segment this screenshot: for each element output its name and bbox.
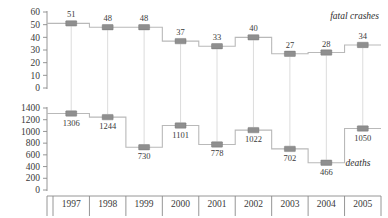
data-point-marker <box>284 51 295 56</box>
data-point-marker <box>248 35 259 40</box>
data-value-label: 37 <box>176 27 185 37</box>
data-value-label: 1306 <box>63 118 80 128</box>
y-tick-label: 0 <box>35 83 40 93</box>
x-axis-year-label: 2001 <box>208 199 227 209</box>
bottom-panel: 0200400600800100012001400130612447301101… <box>21 103 381 195</box>
x-axis-year-label: 1998 <box>98 199 117 209</box>
data-value-label: 1101 <box>172 130 189 140</box>
y-tick-label: 30 <box>31 45 41 55</box>
y-tick-label: 40 <box>31 33 41 43</box>
data-value-label: 466 <box>320 167 333 177</box>
data-point-marker <box>102 25 113 30</box>
x-axis-year-label: 2000 <box>171 199 190 209</box>
y-tick-label: 0 <box>35 185 40 195</box>
data-point-marker <box>139 145 150 150</box>
data-value-label: 51 <box>67 9 76 19</box>
data-value-label: 40 <box>249 23 258 33</box>
dual-step-chart-figure: 0102030405060514848373340272834 02004006… <box>0 0 388 218</box>
y-tick-label: 600 <box>26 150 41 160</box>
y-tick-label: 10 <box>31 71 41 81</box>
x-axis-year-label: 2003 <box>280 199 299 209</box>
data-point-marker <box>321 160 332 165</box>
data-point-marker <box>212 142 223 147</box>
data-value-label: 778 <box>211 148 224 158</box>
chart-canvas: 0102030405060514848373340272834 02004006… <box>0 0 388 218</box>
y-tick-label: 200 <box>26 173 41 183</box>
x-axis-year-label: 2004 <box>317 199 336 209</box>
data-point-marker <box>248 127 259 132</box>
data-point-marker <box>66 111 77 116</box>
data-value-label: 730 <box>138 151 151 161</box>
data-point-marker <box>66 21 77 26</box>
y-tick-label: 800 <box>26 138 41 148</box>
series-labels-layer: fatal crashesdeaths <box>330 11 379 168</box>
y-tick-label: 1400 <box>21 103 40 113</box>
x-axis-year-label: 2005 <box>353 199 372 209</box>
data-point-marker <box>139 25 150 30</box>
data-point-marker <box>357 42 368 47</box>
x-axis-year-label: 2002 <box>244 199 263 209</box>
y-tick-label: 1000 <box>21 127 40 137</box>
x-axis: 199719981999200020012002200320042005 <box>47 196 381 216</box>
series-label-deaths: deaths <box>346 158 371 168</box>
data-point-marker <box>175 38 186 43</box>
data-value-label: 48 <box>103 13 112 23</box>
x-axis-year-label: 1999 <box>135 199 154 209</box>
data-point-marker <box>284 146 295 151</box>
data-point-marker <box>175 123 186 128</box>
data-value-label: 28 <box>322 39 331 49</box>
data-value-label: 1244 <box>99 121 117 131</box>
data-value-label: 27 <box>286 40 295 50</box>
top-panel: 0102030405060514848373340272834 <box>31 7 382 93</box>
data-point-marker <box>212 44 223 49</box>
data-point-marker <box>102 114 113 119</box>
y-tick-label: 50 <box>31 20 41 30</box>
data-value-label: 48 <box>140 13 149 23</box>
data-value-label: 702 <box>284 153 297 163</box>
data-value-label: 1022 <box>245 134 262 144</box>
data-value-label: 34 <box>359 31 368 41</box>
data-value-label: 33 <box>213 32 222 42</box>
data-value-label: 1050 <box>354 133 371 143</box>
data-point-marker <box>357 126 368 131</box>
y-tick-label: 1200 <box>21 115 40 125</box>
x-axis-year-label: 1997 <box>62 199 81 209</box>
data-point-marker <box>321 50 332 55</box>
y-tick-label: 60 <box>31 7 41 17</box>
y-tick-label: 20 <box>31 58 41 68</box>
series-label-fatal-crashes: fatal crashes <box>330 11 379 21</box>
y-tick-label: 400 <box>26 162 41 172</box>
